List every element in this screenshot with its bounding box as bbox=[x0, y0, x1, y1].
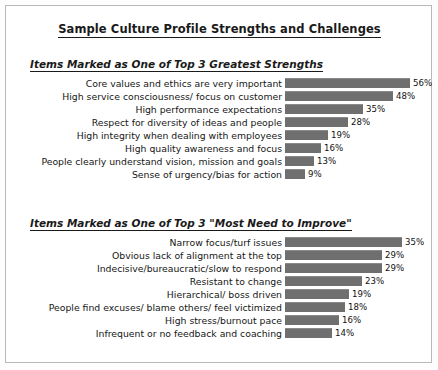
bar-row: Sense of urgency/bias for action9% bbox=[6, 168, 433, 181]
bar-value-label: 19% bbox=[352, 289, 371, 300]
bar-label: High stress/burnout pace bbox=[6, 315, 285, 326]
bar-track: 48% bbox=[285, 90, 433, 103]
bar-value-label: 18% bbox=[348, 302, 367, 313]
bar-fill bbox=[285, 276, 362, 286]
bar-fill bbox=[285, 237, 402, 247]
bar-value-label: 13% bbox=[317, 156, 336, 167]
bar-label: Narrow focus/turf issues bbox=[6, 237, 285, 248]
bar-track: 29% bbox=[285, 262, 433, 275]
bar-value-label: 48% bbox=[396, 91, 415, 102]
bar-track: 14% bbox=[285, 327, 433, 340]
bar-row: Obvious lack of alignment at the top29% bbox=[6, 249, 433, 262]
bar-row: Resistant to change23% bbox=[6, 275, 433, 288]
bar-fill bbox=[285, 289, 349, 299]
bar-value-label: 23% bbox=[365, 276, 384, 287]
document-page: Sample Culture Profile Strengths and Cha… bbox=[0, 0, 438, 370]
bar-label: Sense of urgency/bias for action bbox=[6, 169, 285, 180]
bar-fill bbox=[285, 130, 328, 140]
bar-row: High integrity when dealing with employe… bbox=[6, 129, 433, 142]
bar-row: High performance expectations35% bbox=[6, 103, 433, 116]
bar-fill bbox=[285, 328, 332, 338]
bar-value-label: 56% bbox=[413, 78, 432, 89]
bar-track: 16% bbox=[285, 314, 433, 327]
bar-row: Narrow focus/turf issues35% bbox=[6, 236, 433, 249]
bar-track: 16% bbox=[285, 142, 433, 155]
bar-fill bbox=[285, 104, 363, 114]
bar-label: Infrequent or no feedback and coaching bbox=[6, 328, 285, 339]
bar-fill bbox=[285, 250, 382, 260]
bar-fill bbox=[285, 143, 321, 153]
bar-label: Indecisive/bureaucratic/slow to respond bbox=[6, 263, 285, 274]
bar-fill bbox=[285, 78, 410, 88]
bar-label: People clearly understand vision, missio… bbox=[6, 156, 285, 167]
bar-label: Respect for diversity of ideas and peopl… bbox=[6, 117, 285, 128]
section-strengths-heading-text: Items Marked as One of Top 3 Greatest St… bbox=[30, 58, 323, 72]
section-strengths-heading: Items Marked as One of Top 3 Greatest St… bbox=[30, 58, 323, 70]
content-frame: Sample Culture Profile Strengths and Cha… bbox=[5, 5, 432, 363]
bar-row: Hierarchical/ boss driven19% bbox=[6, 288, 433, 301]
page-title: Sample Culture Profile Strengths and Cha… bbox=[6, 22, 433, 36]
bar-value-label: 28% bbox=[351, 117, 370, 128]
bar-label: Core values and ethics are very importan… bbox=[6, 78, 285, 89]
bar-value-label: 19% bbox=[331, 130, 350, 141]
bar-fill bbox=[285, 91, 393, 101]
bar-row: Core values and ethics are very importan… bbox=[6, 77, 433, 90]
bar-value-label: 29% bbox=[385, 263, 404, 274]
page-title-text: Sample Culture Profile Strengths and Cha… bbox=[58, 22, 381, 38]
bar-track: 9% bbox=[285, 168, 433, 181]
section-improve-heading: Items Marked as One of Top 3 "Most Need … bbox=[30, 217, 352, 229]
bar-value-label: 16% bbox=[324, 143, 343, 154]
bar-label: Obvious lack of alignment at the top bbox=[6, 250, 285, 261]
bar-track: 35% bbox=[285, 103, 433, 116]
bar-row: People clearly understand vision, missio… bbox=[6, 155, 433, 168]
bar-value-label: 35% bbox=[405, 237, 424, 248]
bar-track: 19% bbox=[285, 129, 433, 142]
bar-row: Respect for diversity of ideas and peopl… bbox=[6, 116, 433, 129]
bar-label: High quality awareness and focus bbox=[6, 143, 285, 154]
bar-value-label: 35% bbox=[366, 104, 385, 115]
bar-fill bbox=[285, 117, 348, 127]
bar-label: High service consciousness/ focus on cus… bbox=[6, 91, 285, 102]
bar-row: High quality awareness and focus16% bbox=[6, 142, 433, 155]
bar-track: 18% bbox=[285, 301, 433, 314]
bar-track: 29% bbox=[285, 249, 433, 262]
bar-label: High integrity when dealing with employe… bbox=[6, 130, 285, 141]
section-improve-rows: Narrow focus/turf issues35%Obvious lack … bbox=[6, 236, 433, 340]
bar-fill bbox=[285, 315, 339, 325]
bar-row: Indecisive/bureaucratic/slow to respond2… bbox=[6, 262, 433, 275]
bar-fill bbox=[285, 156, 314, 166]
bar-row: High service consciousness/ focus on cus… bbox=[6, 90, 433, 103]
bar-track: 28% bbox=[285, 116, 433, 129]
bar-value-label: 16% bbox=[342, 315, 361, 326]
bar-track: 35% bbox=[285, 236, 433, 249]
bar-track: 23% bbox=[285, 275, 433, 288]
bar-fill bbox=[285, 263, 382, 273]
bar-row: People find excuses/ blame others/ feel … bbox=[6, 301, 433, 314]
bar-row: Infrequent or no feedback and coaching14… bbox=[6, 327, 433, 340]
bar-track: 56% bbox=[285, 77, 433, 90]
bar-label: People find excuses/ blame others/ feel … bbox=[6, 302, 285, 313]
bar-label: Hierarchical/ boss driven bbox=[6, 289, 285, 300]
bar-fill bbox=[285, 302, 345, 312]
bar-row: High stress/burnout pace16% bbox=[6, 314, 433, 327]
bar-value-label: 9% bbox=[308, 169, 322, 180]
section-strengths-rows: Core values and ethics are very importan… bbox=[6, 77, 433, 181]
bar-fill bbox=[285, 169, 305, 179]
bar-label: High performance expectations bbox=[6, 104, 285, 115]
bar-track: 13% bbox=[285, 155, 433, 168]
section-improve-heading-text: Items Marked as One of Top 3 "Most Need … bbox=[30, 217, 352, 231]
bar-value-label: 29% bbox=[385, 250, 404, 261]
bar-label: Resistant to change bbox=[6, 276, 285, 287]
bar-track: 19% bbox=[285, 288, 433, 301]
bar-value-label: 14% bbox=[335, 328, 354, 339]
